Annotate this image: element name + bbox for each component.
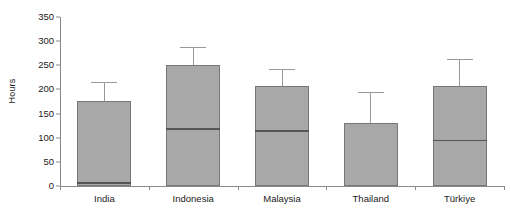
y-axis-tick-mark <box>56 113 60 114</box>
x-axis-tick-mark <box>326 186 327 190</box>
y-axis-tick-mark <box>56 137 60 138</box>
x-axis-tick-mark <box>149 186 150 190</box>
median-line <box>166 128 220 130</box>
x-axis-category-label: Indonesia <box>173 193 214 204</box>
x-axis-category-label: India <box>94 193 115 204</box>
median-line <box>77 182 131 184</box>
whisker-cap <box>180 47 206 48</box>
whisker-cap <box>447 59 473 60</box>
x-axis-category-label: Malaysia <box>263 193 301 204</box>
box <box>255 86 309 186</box>
box <box>77 101 131 186</box>
median-line <box>255 130 309 132</box>
y-axis-tick-mark <box>56 161 60 162</box>
median-line <box>433 140 487 142</box>
box <box>166 65 220 186</box>
whisker-line <box>459 59 460 86</box>
x-axis-tick-mark <box>415 186 416 190</box>
box <box>433 86 487 186</box>
x-axis-tick-mark <box>238 186 239 190</box>
whisker-line <box>104 82 105 101</box>
whisker-line <box>193 47 194 65</box>
whisker-cap <box>91 82 117 83</box>
x-axis-tick-mark <box>504 186 505 190</box>
x-axis-tick-mark <box>60 186 61 190</box>
whisker-cap <box>358 92 384 93</box>
y-axis-tick-mark <box>56 65 60 66</box>
y-axis-tick-mark <box>56 41 60 42</box>
box <box>344 123 398 186</box>
whisker-cap <box>269 69 295 70</box>
whisker-line <box>370 92 371 123</box>
whisker-line <box>282 69 283 86</box>
y-axis-tick-mark <box>56 17 60 18</box>
plot-area <box>0 0 510 222</box>
box-plot-chart: Hours 050100150200250300350 IndiaIndones… <box>0 0 510 222</box>
x-axis-category-label: Thailand <box>353 193 389 204</box>
y-axis-tick-mark <box>56 89 60 90</box>
x-axis-category-label: Türkiye <box>444 193 475 204</box>
